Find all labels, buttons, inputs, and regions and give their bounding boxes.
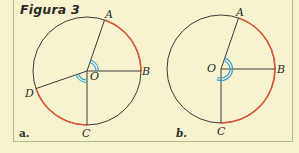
panel-label-b: b. bbox=[176, 128, 187, 139]
point-label-a-A: A bbox=[105, 9, 113, 20]
point-label-a-O: O bbox=[90, 71, 99, 82]
panel-label-a: a. bbox=[19, 128, 29, 139]
panel-a-geometry bbox=[33, 17, 141, 125]
point-label-b-A: A bbox=[236, 7, 244, 18]
point-label-a-B: B bbox=[142, 66, 150, 77]
point-label-b-B: B bbox=[277, 64, 285, 75]
highlighted-arc bbox=[221, 18, 275, 123]
point-label-a-C: C bbox=[82, 128, 90, 139]
highlighted-arc bbox=[36, 89, 87, 125]
angle-mark-arc bbox=[78, 74, 87, 80]
panel-b-geometry bbox=[167, 15, 275, 123]
point-label-b-O: O bbox=[207, 63, 216, 74]
highlighted-arc bbox=[105, 20, 141, 71]
point-label-b-C: C bbox=[217, 126, 225, 137]
figure-3: Figura 3 A B C D O a. A B C O b. bbox=[0, 0, 299, 153]
point-label-a-D: D bbox=[25, 88, 34, 99]
